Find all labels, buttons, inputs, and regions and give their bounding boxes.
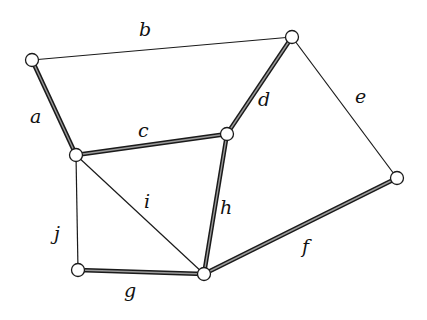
edge-i <box>76 155 204 274</box>
edge-label-e: e <box>355 85 366 107</box>
graph-diagram: a b c d e f g h i j <box>0 0 427 320</box>
edge-f <box>204 178 397 274</box>
edge-label-j: j <box>50 222 60 244</box>
edge-label-b: b <box>139 18 151 40</box>
node-v1 <box>26 54 39 67</box>
node-v5 <box>391 172 404 185</box>
edge-b <box>32 37 292 60</box>
edge-label-h: h <box>220 196 232 218</box>
edge-label-f: f <box>300 235 312 257</box>
edge-label-g: g <box>124 279 136 301</box>
edge-c <box>76 134 227 155</box>
edge-j <box>76 155 78 270</box>
node-v7 <box>198 268 211 281</box>
edge-d <box>227 37 292 134</box>
node-v4 <box>221 128 234 141</box>
edge-label-i: i <box>144 190 150 212</box>
edge-label-d: d <box>258 88 270 110</box>
node-v3 <box>70 149 83 162</box>
edge-e <box>292 37 397 178</box>
edge-label-a: a <box>30 105 41 127</box>
node-v2 <box>286 31 299 44</box>
edge-g <box>78 270 204 274</box>
node-v6 <box>72 264 85 277</box>
edge-label-c: c <box>138 119 149 141</box>
